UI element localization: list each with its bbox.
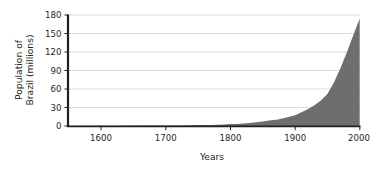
x-tick-label-1600: 1600: [90, 133, 112, 143]
y-axis-label-line1: Population of: [13, 39, 24, 100]
y-tick-label-150: 150: [45, 29, 61, 39]
x-tick-label-1700: 1700: [155, 133, 177, 143]
y-tick-label-0: 0: [56, 121, 61, 131]
x-axis-label: Years: [199, 151, 224, 162]
y-tick-label-120: 120: [45, 47, 61, 57]
chart-figure: 180 150 120 90 60 30 0 1600 1700 1800 19…: [0, 0, 390, 175]
y-tick-label-90: 90: [51, 66, 62, 76]
y-tick-label-180: 180: [45, 10, 61, 20]
y-axis-label-line2: Brazil (millions): [24, 34, 35, 105]
y-tick-label-30: 30: [51, 103, 62, 113]
x-tick-label-1800: 1800: [220, 133, 242, 143]
x-tick-label-2000: 2000: [348, 133, 370, 143]
population-area-chart: 180 150 120 90 60 30 0 1600 1700 1800 19…: [0, 0, 390, 175]
y-axis-label: Population of Brazil (millions): [13, 34, 35, 105]
y-tick-label-60: 60: [51, 84, 62, 94]
x-tick-label-1900: 1900: [284, 133, 306, 143]
